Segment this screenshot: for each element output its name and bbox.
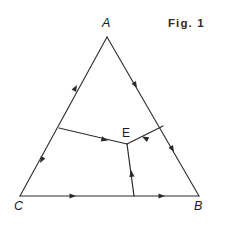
- arrow-side-CB-right-icon: [159, 193, 166, 198]
- segment-bottom-to-E: [127, 144, 134, 196]
- vertex-label-a: A: [102, 17, 111, 30]
- direction-arrowheads: [38, 81, 177, 199]
- vertex-label-b: B: [194, 200, 203, 213]
- interior-segments: [59, 126, 163, 196]
- side-CA: [20, 37, 107, 196]
- arrow-side-CB-left-icon: [70, 193, 77, 198]
- figure-caption: Fig. 1: [168, 18, 205, 30]
- arrow-segment-bottom-to-E-icon: [128, 170, 134, 177]
- arrow-side-CA-lower-icon: [38, 156, 46, 164]
- side-AB: [107, 37, 199, 196]
- geometry-diagram-canvas: [0, 0, 226, 231]
- triangle-sides: [20, 37, 199, 196]
- figure-container: A B C E Fig. 1: [0, 0, 226, 231]
- segment-right-to-E: [127, 126, 163, 144]
- segment-left-to-E: [59, 128, 127, 144]
- vertex-label-c: C: [14, 200, 23, 213]
- point-label-e: E: [122, 127, 130, 139]
